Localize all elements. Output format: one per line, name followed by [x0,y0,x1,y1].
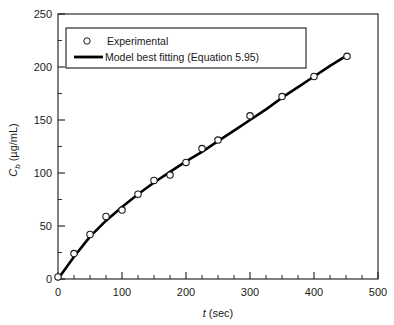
legend-marker-open-circle-icon [84,38,90,44]
data-marker [199,145,205,151]
x-tick-label-300: 300 [241,286,259,298]
data-marker [344,53,350,59]
y-tick-label-0: 0 [46,273,52,285]
x-axis-minor-ticks [74,275,362,279]
legend-label-experimental: Experimental [107,35,168,47]
x-tick-label-500: 500 [369,286,387,298]
svg-text:Cb (µg/mL): Cb (µg/mL) [7,123,22,177]
x-tick-label-400: 400 [305,286,323,298]
data-marker [103,213,109,219]
legend-label-model-best-fitting: Model best fitting (Equation 5.95) [105,51,259,63]
chart-legend: Experimental Model best fitting (Equatio… [66,28,306,68]
data-marker [151,177,157,183]
x-tick-label-200: 200 [177,286,195,298]
y-axis-title-units: (µg/mL) [7,123,19,164]
y-axis-title-symbol: C [7,169,19,177]
x-axis-title: t (sec) [203,307,234,319]
data-marker [311,73,317,79]
data-marker [71,250,77,256]
data-marker [183,159,189,165]
data-marker [55,274,61,280]
y-tick-label-50: 50 [40,220,52,232]
x-tick-label-0: 0 [55,286,61,298]
data-marker [247,113,253,119]
data-marker [87,231,93,237]
y-axis-tick-labels: 0 50 100 150 200 250 [34,8,52,285]
y-tick-label-150: 150 [34,114,52,126]
y-axis-minor-ticks [58,41,62,253]
x-axis-title-units: (sec) [206,307,234,319]
svg-text:t (sec): t (sec) [203,307,234,319]
y-tick-label-200: 200 [34,61,52,73]
y-tick-label-100: 100 [34,167,52,179]
x-tick-label-100: 100 [113,286,131,298]
data-marker [167,172,173,178]
y-axis-title: Cb (µg/mL) [7,123,22,177]
chart-canvas: 0 50 100 150 200 250 0 100 200 300 400 5… [0,0,394,325]
model-best-fit-curve [58,55,347,279]
data-marker [119,207,125,213]
data-marker [135,191,141,197]
data-marker [279,93,285,99]
y-tick-label-250: 250 [34,8,52,20]
x-axis-tick-labels: 0 100 200 300 400 500 [55,286,387,298]
experimental-data-points [55,53,350,280]
chart-figure: 0 50 100 150 200 250 0 100 200 300 400 5… [0,0,394,325]
data-marker [215,137,221,143]
